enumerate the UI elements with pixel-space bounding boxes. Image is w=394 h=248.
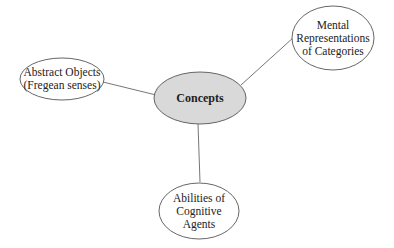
node-concepts: Concepts [154, 72, 246, 124]
edge-concepts-mental [241, 37, 294, 85]
node-abilities: Abilities of Cognitive Agents [159, 184, 239, 238]
node-abstract-line-1: Abstract Objects [24, 66, 101, 79]
node-abilities-line-1: Abilities of [173, 192, 225, 205]
node-abilities-line-2: Cognitive Agents [159, 205, 239, 231]
concept-diagram: Abstract Objects (Fregean senses) Concep… [0, 0, 394, 248]
node-mental-representations: Mental Representations of Categories [292, 6, 374, 70]
node-mental-line-3: of Categories [302, 45, 364, 58]
node-mental-line-1: Mental [317, 19, 350, 32]
node-concepts-label: Concepts [176, 92, 223, 105]
edge-concepts-abilities [198, 124, 200, 182]
node-abstract-objects: Abstract Objects (Fregean senses) [20, 58, 104, 100]
node-mental-line-2: Representations [296, 32, 369, 45]
node-abstract-line-2: (Fregean senses) [24, 79, 101, 92]
edge-concepts-abstract [103, 82, 156, 95]
